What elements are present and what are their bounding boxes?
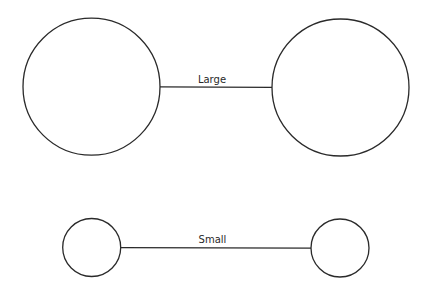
small-right-circle [311, 219, 369, 277]
large-connector-line [160, 87, 272, 88]
large-pair: Large [23, 18, 409, 156]
small-connector-line [121, 248, 311, 249]
large-left-circle [23, 18, 160, 155]
diagram-canvas: Large Small [0, 0, 428, 292]
large-right-circle [272, 19, 409, 156]
small-pair: Small [63, 219, 369, 278]
small-label: Small [199, 234, 227, 245]
small-left-circle [63, 219, 121, 277]
large-label: Large [198, 74, 226, 85]
